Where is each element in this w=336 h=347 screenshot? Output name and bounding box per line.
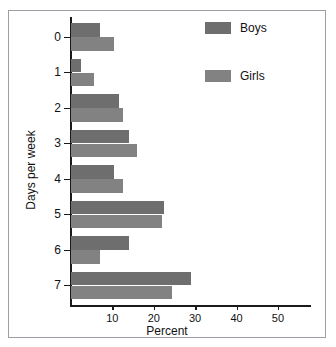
bar-girls-day-4 bbox=[71, 179, 123, 193]
y-tick-7 bbox=[64, 285, 70, 286]
y-tick-0 bbox=[64, 37, 70, 38]
y-tick-4 bbox=[64, 179, 70, 180]
x-tick-10 bbox=[112, 305, 113, 310]
bar-girls-day-5 bbox=[71, 215, 162, 229]
legend-item-boys: Boys bbox=[205, 19, 315, 37]
bar-boys-day-1 bbox=[71, 59, 81, 73]
x-tick-label-30: 30 bbox=[189, 312, 201, 324]
y-tick-2 bbox=[64, 108, 70, 109]
x-tick-label-50: 50 bbox=[272, 312, 284, 324]
x-tick-label-40: 40 bbox=[230, 312, 242, 324]
bar-boys-day-0 bbox=[71, 23, 100, 37]
bar-girls-day-0 bbox=[71, 37, 114, 51]
y-tick-label-3: 3 bbox=[45, 136, 61, 150]
legend-label-boys: Boys bbox=[240, 21, 267, 35]
x-tick-50 bbox=[278, 305, 279, 310]
legend-label-girls: Girls bbox=[240, 69, 265, 83]
x-axis-label: Percent bbox=[9, 324, 325, 338]
y-axis-label: Days per week bbox=[24, 110, 38, 230]
bar-boys-day-7 bbox=[71, 272, 191, 286]
y-tick-label-0: 0 bbox=[45, 30, 61, 44]
x-tick-20 bbox=[154, 305, 155, 310]
x-tick-label-10: 10 bbox=[106, 312, 118, 324]
y-tick-6 bbox=[64, 250, 70, 251]
bar-boys-day-6 bbox=[71, 236, 129, 250]
legend-item-girls: Girls bbox=[205, 67, 315, 85]
x-tick-label-20: 20 bbox=[148, 312, 160, 324]
x-axis-line bbox=[70, 305, 311, 307]
y-tick-3 bbox=[64, 143, 70, 144]
y-tick-label-7: 7 bbox=[45, 278, 61, 292]
x-tick-40 bbox=[237, 305, 238, 310]
legend-swatch-girls-icon bbox=[205, 70, 231, 82]
y-tick-label-2: 2 bbox=[45, 101, 61, 115]
y-tick-label-5: 5 bbox=[45, 207, 61, 221]
bar-girls-day-6 bbox=[71, 250, 100, 264]
bar-girls-day-7 bbox=[71, 286, 172, 300]
bar-boys-day-5 bbox=[71, 201, 164, 215]
bar-girls-day-2 bbox=[71, 108, 123, 122]
y-tick-1 bbox=[64, 72, 70, 73]
y-tick-label-1: 1 bbox=[45, 65, 61, 79]
bar-girls-day-3 bbox=[71, 144, 137, 158]
bar-boys-day-2 bbox=[71, 94, 119, 108]
bar-boys-day-4 bbox=[71, 165, 114, 179]
y-tick-5 bbox=[64, 214, 70, 215]
chart-figure: 01234567 1020304050 Days per week Percen… bbox=[8, 10, 326, 338]
y-tick-label-4: 4 bbox=[45, 172, 61, 186]
plot-area: 01234567 1020304050 Days per week Percen… bbox=[9, 11, 325, 337]
y-tick-label-6: 6 bbox=[45, 243, 61, 257]
bar-boys-day-3 bbox=[71, 130, 129, 144]
chart-legend: Boys Girls bbox=[205, 19, 315, 115]
legend-swatch-boys-icon bbox=[205, 22, 231, 34]
x-tick-30 bbox=[195, 305, 196, 310]
bar-girls-day-1 bbox=[71, 73, 94, 87]
